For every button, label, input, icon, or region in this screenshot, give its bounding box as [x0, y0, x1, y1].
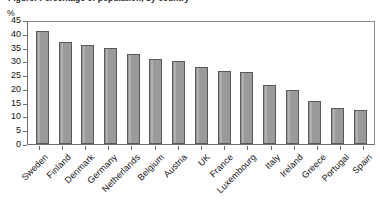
- x-axis-tick-mark: [85, 146, 86, 150]
- y-axis-tick-label: 30: [11, 56, 21, 67]
- x-axis-tick-mark: [155, 146, 156, 150]
- x-axis-tick-mark: [363, 146, 364, 150]
- bar: [81, 45, 94, 144]
- y-axis-tick-label: 5: [16, 125, 21, 136]
- y-axis-tick-label: 10: [11, 111, 21, 122]
- chart-title: Figure: Percentage of population, by cou…: [8, 0, 376, 3]
- bar: [104, 48, 117, 144]
- x-axis-tick-mark: [178, 146, 179, 150]
- bar: [218, 71, 231, 144]
- x-axis-tick-label: Spain: [351, 152, 375, 176]
- y-axis-tick-label: 0: [16, 139, 21, 150]
- x-axis-tick-mark: [340, 146, 341, 150]
- x-axis-tick-mark: [247, 146, 248, 150]
- y-axis: 051015202530354045: [0, 21, 27, 145]
- bar: [286, 90, 299, 144]
- bar: [308, 101, 321, 144]
- x-axis-tick-mark: [294, 146, 295, 150]
- x-axis-tick-mark: [201, 146, 202, 150]
- x-axis-tick-mark: [317, 146, 318, 150]
- y-axis-tick-label: 45: [11, 15, 21, 26]
- y-axis-tick-label: 25: [11, 70, 21, 81]
- x-axis-tick-mark: [224, 146, 225, 150]
- bar: [195, 67, 208, 144]
- bar-chart-figure: Figure: Percentage of population, by cou…: [0, 0, 380, 214]
- x-axis-tick-label: Sweden: [19, 152, 49, 182]
- bar: [263, 85, 276, 144]
- x-axis-tick-mark: [62, 146, 63, 150]
- y-axis-tick-label: 15: [11, 98, 21, 109]
- y-axis-tick-label: 35: [11, 43, 21, 54]
- y-axis-tick-label: 20: [11, 84, 21, 95]
- plot-area: [27, 21, 375, 145]
- bar: [240, 72, 253, 144]
- x-axis-tick-mark: [271, 146, 272, 150]
- bar: [36, 31, 49, 144]
- bar-series: [28, 22, 374, 144]
- x-axis-tick-mark: [131, 146, 132, 150]
- x-axis-tick-mark: [39, 146, 40, 150]
- bar: [127, 54, 140, 144]
- x-axis-tick-label: Italy: [263, 152, 282, 171]
- x-axis-tick-label: UK: [196, 152, 212, 168]
- bar: [149, 59, 162, 144]
- bar: [59, 42, 72, 144]
- bar: [354, 110, 367, 144]
- y-axis-tick-label: 40: [11, 29, 21, 40]
- bar: [172, 61, 185, 144]
- x-axis: SwedenFinlandDenmarkGermanyNetherlandsBe…: [27, 146, 375, 214]
- x-axis-tick-label: Austria: [161, 152, 188, 179]
- bar: [331, 108, 344, 144]
- x-axis-tick-mark: [108, 146, 109, 150]
